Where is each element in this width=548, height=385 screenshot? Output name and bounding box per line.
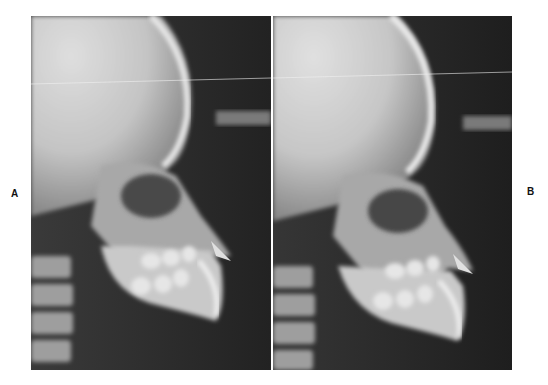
xray-panel-b xyxy=(273,16,512,370)
xray-panel-a xyxy=(31,16,271,370)
panel-a-label: A xyxy=(11,188,18,199)
panel-b-label: B xyxy=(527,186,534,197)
cephalometric-xray-image-a xyxy=(31,16,271,370)
cephalometric-xray-image-b xyxy=(273,16,512,370)
